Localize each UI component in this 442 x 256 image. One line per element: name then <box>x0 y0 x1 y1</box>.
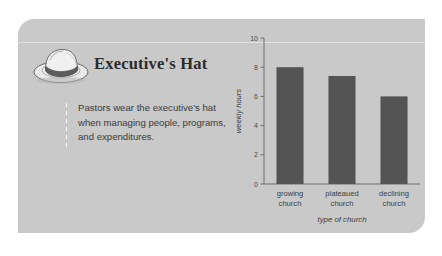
body-block: Pastors wear the executive's hat when ma… <box>66 101 228 145</box>
y-axis-tick-label: 4 <box>254 122 258 129</box>
x-axis-category-label: declining <box>379 189 409 198</box>
dashed-divider <box>66 103 67 151</box>
card-header: Executive's Hat <box>32 43 207 85</box>
page-root: Executive's Hat Pastors wear the executi… <box>0 0 442 256</box>
chart-svg: 0246810weekly hoursgrowingchurchplateaue… <box>232 24 428 234</box>
y-axis-tick-label: 0 <box>254 181 258 188</box>
bar <box>380 96 407 184</box>
y-axis-tick-label: 6 <box>254 93 258 100</box>
bar <box>328 76 355 184</box>
left-panel: Executive's Hat Pastors wear the executi… <box>18 23 223 173</box>
y-axis-tick-label: 8 <box>254 64 258 71</box>
y-axis-tick-label: 2 <box>254 151 258 158</box>
body-text: Pastors wear the executive's hat when ma… <box>78 101 228 145</box>
x-axis-category-label: church <box>383 199 406 208</box>
x-axis-category-label: church <box>331 199 354 208</box>
page-title: Executive's Hat <box>94 54 207 74</box>
y-axis-tick-label: 10 <box>250 35 258 42</box>
x-axis-title: type of church <box>318 215 367 224</box>
y-axis-title: weekly hours <box>234 89 243 134</box>
bar <box>276 67 303 184</box>
x-axis-category-label: church <box>279 199 302 208</box>
weekly-hours-bar-chart: 0246810weekly hoursgrowingchurchplateaue… <box>232 24 428 234</box>
x-axis-category-label: growing <box>277 189 304 198</box>
x-axis-category-label: plateaued <box>325 189 358 198</box>
executive-hat-icon <box>32 43 90 85</box>
